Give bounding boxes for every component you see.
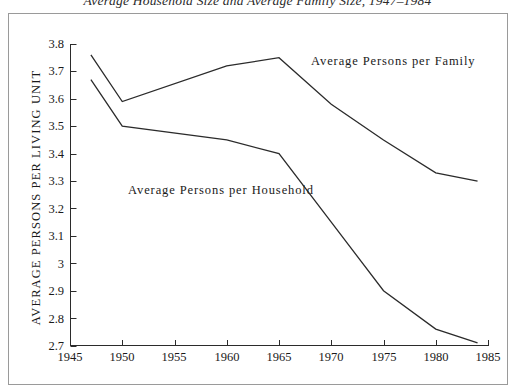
series-line-household [91,80,478,343]
series-line-family [91,55,478,181]
y-axis-ticks [71,45,77,347]
axis-spines [70,44,488,346]
series-lines [91,55,478,343]
chart-figure: Average Household Size and Average Famil… [0,0,515,390]
plot-canvas [0,0,515,390]
